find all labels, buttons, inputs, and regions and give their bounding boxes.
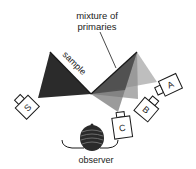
source-a: A: [153, 74, 182, 99]
title-line2: primaries: [77, 21, 116, 32]
source-s: S: [11, 91, 39, 119]
leader-line: [100, 32, 116, 68]
source-c: C: [111, 111, 132, 139]
observer-label: observer: [78, 155, 113, 165]
source-b: B: [134, 93, 163, 122]
title-line1: mixture of: [76, 10, 118, 21]
observer-head: [62, 124, 118, 152]
colorimetry-diagram: mixture of primaries sample observer S A…: [0, 0, 196, 169]
